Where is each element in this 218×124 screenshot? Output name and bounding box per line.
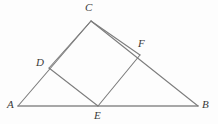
- segment-CB: [91, 21, 198, 106]
- vertex-label-B: B: [202, 99, 209, 110]
- vertex-label-E: E: [94, 110, 101, 121]
- segment-DC: [49, 21, 91, 68]
- vertex-label-D: D: [36, 57, 44, 68]
- geometry-figure: A B C D E F: [0, 0, 218, 124]
- segment-EF: [98, 55, 140, 106]
- vertex-label-C: C: [85, 2, 92, 13]
- segment-CF: [91, 21, 140, 55]
- segment-DE: [49, 68, 98, 106]
- vertex-label-A: A: [7, 99, 14, 110]
- figure-canvas: [0, 0, 218, 124]
- vertex-label-F: F: [138, 38, 145, 49]
- segments-group: [18, 21, 198, 106]
